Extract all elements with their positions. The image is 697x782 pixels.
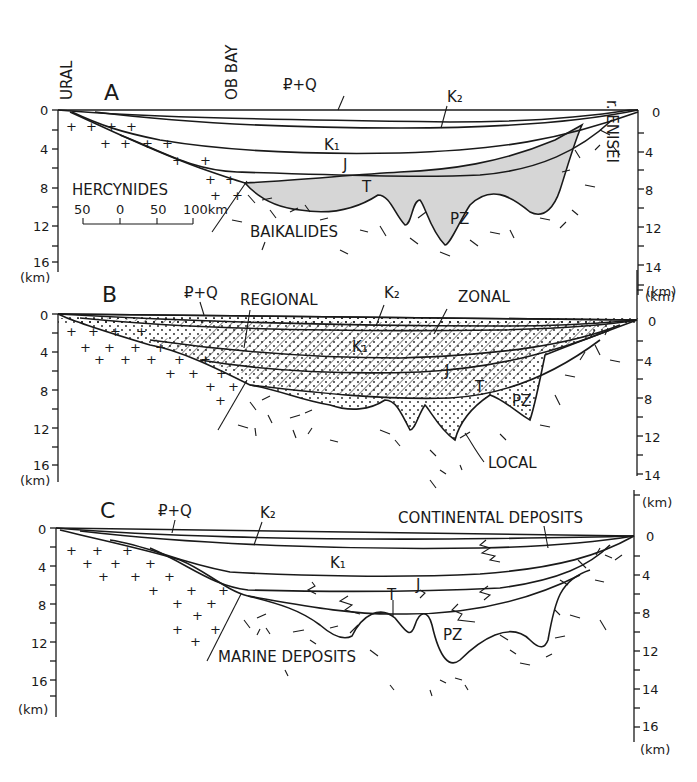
svg-text:+: +	[130, 569, 141, 584]
tick-16: 16	[33, 458, 50, 473]
label-regional: REGIONAL	[240, 291, 318, 309]
label-zonal: ZONAL	[458, 288, 511, 306]
panel-c: C 0 4 8 12 16 (km)	[18, 490, 672, 757]
right-tick-0: 0	[648, 314, 656, 329]
svg-text:+: +	[210, 622, 221, 637]
label-t: T	[474, 378, 485, 396]
panel-c-letter: C	[100, 498, 115, 523]
svg-text:+: +	[120, 352, 131, 367]
label-baikalides: BAIKALIDES	[250, 223, 338, 241]
label-k1: K₁	[324, 136, 340, 154]
t-base	[248, 575, 580, 614]
right-unit-km-a-bottom: (km)	[646, 284, 676, 299]
label-pz: PZ	[443, 626, 462, 644]
svg-text:+: +	[146, 352, 157, 367]
svg-text:+: +	[110, 556, 121, 571]
right-tick-14: 14	[645, 260, 662, 275]
svg-text:+: +	[92, 543, 103, 558]
svg-text:+: +	[66, 324, 77, 339]
right-tick-4: 4	[642, 568, 650, 583]
surface-line	[56, 528, 634, 536]
geological-cross-sections: URAL OB BAY r. ENISEI A 0 4 8 12 16 (km)	[0, 0, 697, 782]
tick-0: 0	[38, 522, 46, 537]
unit-km: (km)	[20, 270, 50, 285]
pq-pointer	[200, 302, 204, 315]
svg-text:+: +	[192, 608, 203, 623]
k1-base	[110, 536, 634, 576]
label-marine-deposits: MARINE DEPOSITS	[218, 648, 356, 666]
baikalides-dashes	[244, 548, 622, 696]
label-pq: ₽+Q	[184, 284, 218, 302]
tick-4: 4	[40, 142, 48, 157]
tick-12: 12	[31, 636, 48, 651]
left-axis-ticks	[52, 110, 58, 262]
pq-pointer	[338, 96, 344, 110]
svg-text:+: +	[205, 379, 216, 394]
svg-text:+: +	[110, 324, 121, 339]
unit-km: (km)	[20, 473, 50, 488]
svg-text:+: +	[206, 596, 217, 611]
svg-text:+: +	[136, 324, 147, 339]
svg-text:+: +	[106, 119, 117, 134]
svg-text:+: +	[66, 119, 77, 134]
unit-km: (km)	[18, 702, 48, 717]
tick-0: 0	[40, 103, 48, 118]
tick-8: 8	[38, 598, 46, 613]
svg-text:+: +	[228, 379, 239, 394]
right-tick-12: 12	[642, 644, 659, 659]
svg-text:+: +	[172, 596, 183, 611]
svg-text:+: +	[164, 569, 175, 584]
scale-tick-50-right: 50	[150, 202, 167, 217]
label-ural: URAL	[58, 60, 76, 100]
label-continental-deposits: CONTINENTAL DEPOSITS	[398, 509, 583, 527]
label-j: J	[444, 362, 449, 380]
pq-base	[58, 110, 630, 122]
svg-text:+: +	[88, 324, 99, 339]
tick-0: 0	[40, 308, 48, 323]
panel-a-letter: A	[104, 80, 119, 105]
right-axis-ticks	[634, 495, 640, 727]
label-pz: PZ	[512, 392, 531, 410]
label-pq: ₽+Q	[158, 502, 192, 520]
scale-tick-50-left: 50	[74, 202, 91, 217]
label-k2: K₂	[260, 504, 276, 522]
svg-text:+: +	[98, 569, 109, 584]
tick-8: 8	[40, 181, 48, 196]
svg-text:+: +	[122, 543, 133, 558]
label-local: LOCAL	[488, 454, 537, 472]
label-j: J	[342, 156, 347, 174]
label-t: T	[361, 178, 372, 196]
panel-b-letter: B	[102, 282, 117, 307]
svg-text:+: +	[142, 136, 153, 151]
label-k1: K₁	[352, 338, 368, 356]
tick-4: 4	[40, 345, 48, 360]
label-pz: PZ	[450, 210, 469, 228]
svg-text:+: +	[200, 153, 211, 168]
svg-text:+: +	[82, 556, 93, 571]
svg-text:+: +	[130, 340, 141, 355]
right-tick-14: 14	[644, 468, 661, 483]
svg-text:+: +	[215, 393, 226, 408]
label-pq: ₽+Q	[283, 76, 317, 94]
svg-text:+: +	[190, 634, 201, 649]
svg-text:+: +	[120, 136, 131, 151]
pq-pointer	[172, 520, 175, 533]
right-tick-12: 12	[645, 221, 662, 236]
svg-text:+: +	[186, 583, 197, 598]
right-axis-ticks	[637, 290, 643, 474]
svg-text:+: +	[162, 136, 173, 151]
svg-text:+: +	[86, 119, 97, 134]
svg-text:+: +	[80, 340, 91, 355]
right-tick-0: 0	[652, 105, 660, 120]
svg-text:+: +	[210, 188, 221, 203]
label-k2: K₂	[384, 284, 400, 302]
right-tick-8: 8	[642, 606, 650, 621]
svg-text:+: +	[100, 136, 111, 151]
right-tick-0: 0	[646, 529, 654, 544]
right-unit-km-b-bottom: (km)	[642, 495, 672, 510]
tick-12: 12	[33, 219, 50, 234]
tick-8: 8	[40, 384, 48, 399]
right-tick-4: 4	[644, 354, 652, 369]
label-k2: K₂	[447, 88, 463, 106]
svg-text:+: +	[94, 352, 105, 367]
